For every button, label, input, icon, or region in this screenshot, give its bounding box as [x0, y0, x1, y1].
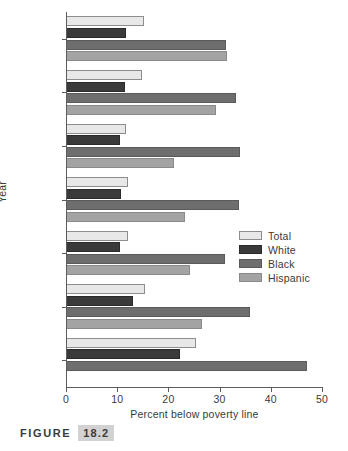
x-axis-tick-label: 20 [162, 393, 174, 405]
figure-caption-number: 18.2 [78, 425, 114, 441]
x-axis-tick [66, 387, 67, 392]
legend-swatch-white [239, 245, 262, 254]
legend-swatch-hispanic [239, 273, 262, 282]
x-axis-tick [220, 387, 221, 392]
x-axis-tick [117, 387, 118, 392]
bar-black-1990 [66, 200, 239, 210]
x-axis-tick-label: 40 [265, 393, 277, 405]
legend-item-black: Black [239, 257, 339, 270]
y-axis-tick [62, 360, 66, 361]
bar-hispanic-1990 [66, 212, 185, 222]
x-axis-tick [168, 387, 169, 392]
bar-hispanic-1992 [66, 105, 216, 115]
legend-item-total: Total [239, 229, 339, 242]
bar-white-1985 [66, 242, 120, 252]
legend-label-hispanic: Hispanic [268, 272, 310, 284]
figure-caption-word: FIGURE [20, 427, 71, 439]
bar-total-1985 [66, 231, 128, 241]
bar-white-1994 [66, 28, 126, 38]
x-axis-tick-label: 30 [214, 393, 226, 405]
bar-white-1991 [66, 135, 120, 145]
legend: Total White Black Hispanic [239, 229, 339, 285]
x-axis-tick-label: 50 [316, 393, 328, 405]
bar-hispanic-1979 [66, 319, 202, 329]
bar-white-1979 [66, 296, 133, 306]
y-axis-title: Year [0, 181, 8, 203]
x-axis-tick [271, 387, 272, 392]
bar-black-1991 [66, 147, 240, 157]
bar-black-1979 [66, 307, 250, 317]
y-axis-tick [62, 39, 66, 40]
bar-total-1991 [66, 124, 126, 134]
x-axis-tick-label: 0 [63, 393, 69, 405]
legend-swatch-total [239, 231, 262, 240]
bar-black-1994 [66, 40, 226, 50]
bar-white-1990 [66, 189, 121, 199]
bar-black-1985 [66, 254, 225, 264]
legend-item-white: White [239, 243, 339, 256]
y-axis-line [66, 12, 67, 387]
bar-hispanic-1991 [66, 158, 174, 168]
y-axis-tick [62, 253, 66, 254]
x-axis-title: Percent below poverty line [66, 408, 323, 420]
x-axis-tick-label: 10 [111, 393, 123, 405]
bar-white-1992 [66, 82, 125, 92]
bar-total-1992 [66, 70, 142, 80]
legend-label-white: White [268, 244, 296, 256]
legend-item-hispanic: Hispanic [239, 271, 339, 284]
figure-container: 01020304050 1994199219911990198519791970… [0, 0, 348, 451]
bar-hispanic-1985 [66, 265, 190, 275]
y-axis-tick [62, 146, 66, 147]
bar-black-1992 [66, 93, 236, 103]
bar-total-1979 [66, 284, 145, 294]
y-axis-tick [62, 307, 66, 308]
legend-swatch-black [239, 259, 262, 268]
legend-label-total: Total [268, 230, 291, 242]
bar-total-1970 [66, 338, 196, 348]
bar-white-1970 [66, 349, 180, 359]
y-axis-tick [62, 200, 66, 201]
figure-caption: FIGURE 18.2 [20, 425, 114, 441]
legend-label-black: Black [268, 258, 295, 270]
y-axis-tick [62, 92, 66, 93]
x-axis-tick [322, 387, 323, 392]
x-axis-line [66, 387, 323, 388]
plot-area [66, 12, 322, 387]
bar-total-1990 [66, 177, 128, 187]
bar-total-1994 [66, 16, 144, 26]
bar-black-1970 [66, 361, 307, 371]
bar-hispanic-1994 [66, 51, 227, 61]
